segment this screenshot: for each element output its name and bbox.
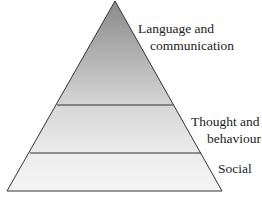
level-label-language: Language and communication xyxy=(138,20,234,54)
label-line: communication xyxy=(138,37,234,54)
label-line: behaviour xyxy=(191,130,261,147)
label-line: Language and xyxy=(138,20,234,37)
level-label-thought: Thought and behaviour xyxy=(191,113,261,147)
label-line: Social xyxy=(218,160,252,177)
label-line: Thought and xyxy=(191,113,261,130)
level-label-social: Social xyxy=(218,160,252,177)
